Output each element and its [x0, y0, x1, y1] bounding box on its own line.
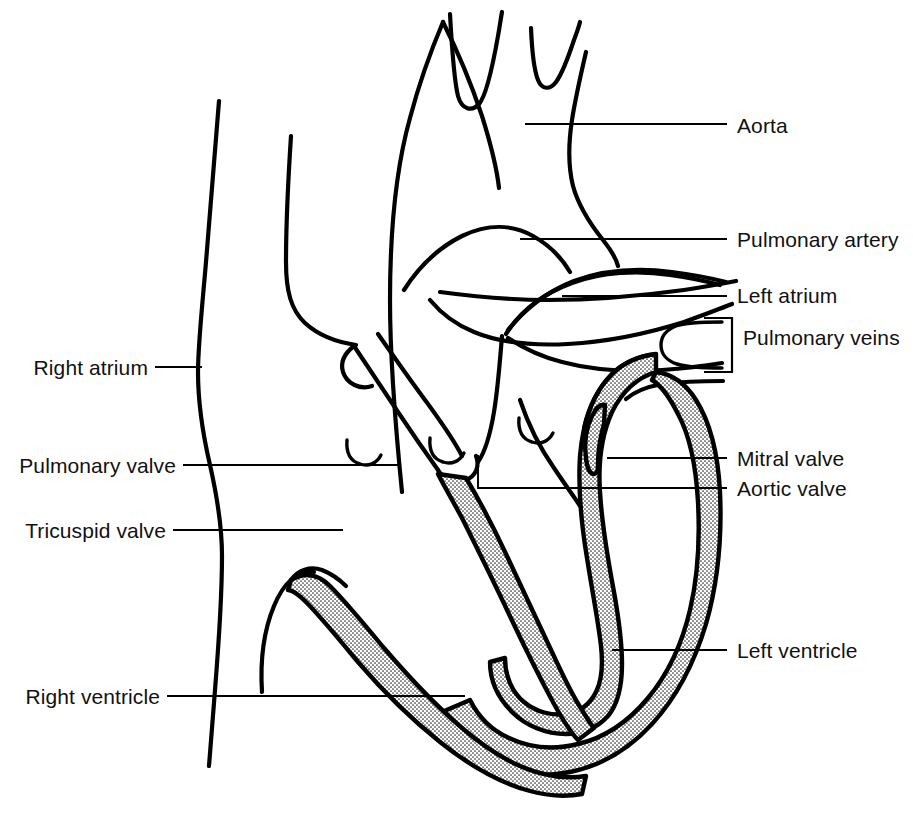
label-left-atrium: Left atrium — [737, 284, 837, 307]
label-right-ventricle: Right ventricle — [25, 685, 160, 708]
label-left-ventricle: Left ventricle — [737, 639, 857, 662]
label-pulmonary-veins: Pulmonary veins — [743, 326, 900, 349]
label-aortic-valve: Aortic valve — [737, 477, 847, 500]
heart-diagram-svg: Aorta Pulmonary artery Left atrium Pulmo… — [0, 0, 913, 813]
label-right-atrium: Right atrium — [34, 356, 148, 379]
label-pulmonary-valve: Pulmonary valve — [19, 454, 176, 477]
heart-anatomy-figure: Aorta Pulmonary artery Left atrium Pulmo… — [0, 0, 913, 813]
label-aorta: Aorta — [737, 114, 788, 137]
label-mitral-valve: Mitral valve — [737, 447, 844, 470]
label-pulmonary-artery: Pulmonary artery — [737, 228, 899, 251]
label-tricuspid-valve: Tricuspid valve — [25, 519, 166, 542]
